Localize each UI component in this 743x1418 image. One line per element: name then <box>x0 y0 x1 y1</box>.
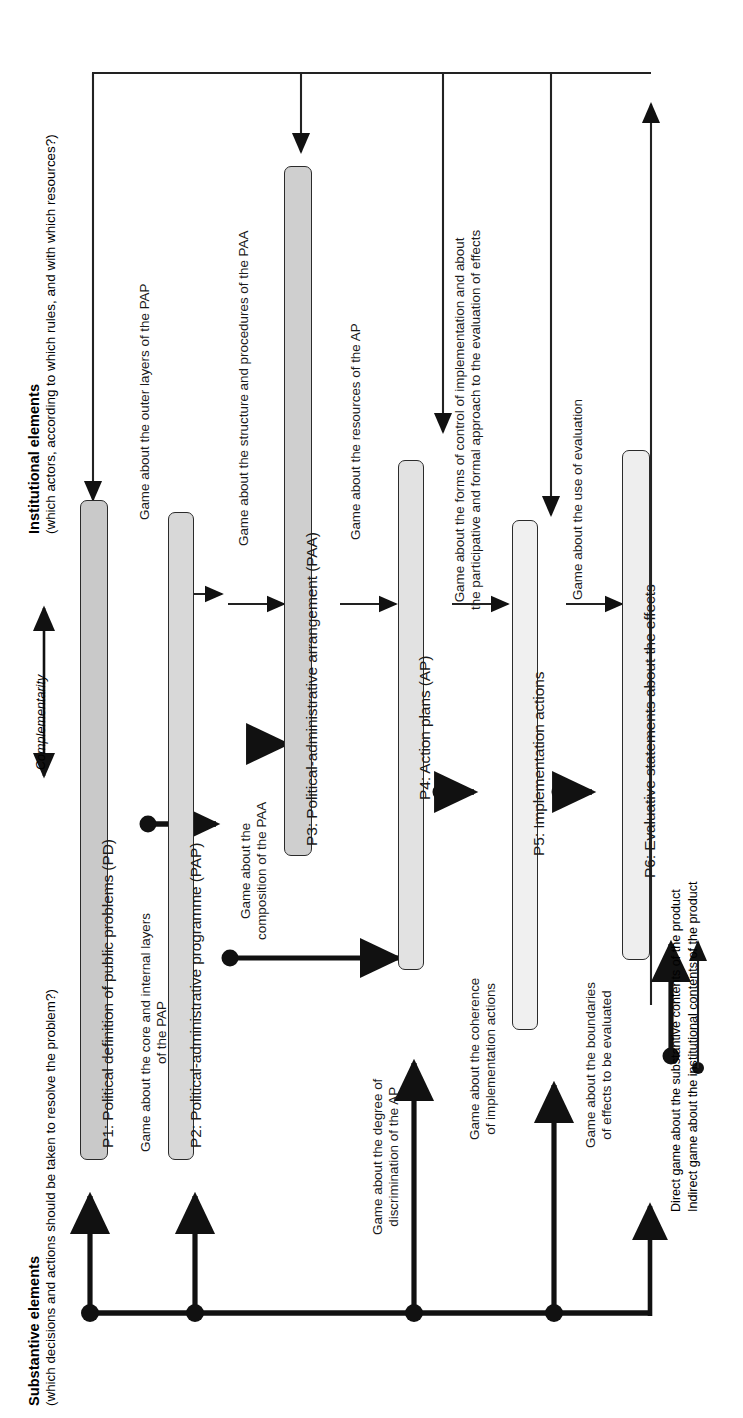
game-label-line: Game about the use of evaluation <box>570 399 586 600</box>
game-label-structure-procedures-paa: Game about the structure and procedures … <box>236 231 252 546</box>
game-label-line: the participative and formal approach to… <box>468 230 484 610</box>
legend-indirect-game-label: Indirect game about the institutional co… <box>686 882 701 1212</box>
game-label-line: Game about the degree of <box>370 1079 386 1235</box>
game-label-use-of-evaluation: Game about the use of evaluation <box>570 399 586 600</box>
game-label-line: Game about the forms of control of imple… <box>452 230 468 610</box>
game-label-line: discrimination of the AP <box>386 1079 402 1235</box>
game-label-line: composition of the PAA <box>254 802 270 940</box>
legend-direct-game-label: Direct game about the substantive conten… <box>669 889 684 1212</box>
game-label-line: of the PAP <box>154 913 170 1152</box>
substantive-elements-title: Substantive elements <box>26 1256 43 1406</box>
game-label-line: Game about the structure and procedures … <box>236 231 252 546</box>
game-label-line: Game about the coherence <box>467 978 483 1140</box>
complementarity-label: Complementarity <box>34 675 49 770</box>
game-label-coherence-implementation: Game about the coherence of implementati… <box>467 978 499 1140</box>
substantive-elements-subtitle: (which decisions and actions should be t… <box>43 989 59 1406</box>
diagram-canvas: P1: Political definition of public probl… <box>0 0 743 1418</box>
institutional-chain-arrows <box>170 594 622 604</box>
institutional-elements-subtitle: (which actors, according to which rules,… <box>43 134 59 534</box>
game-label-line: Game about the <box>238 802 254 940</box>
game-label-outer-layers: Game about the outer layers of the PAP <box>137 284 153 520</box>
game-label-line: Game about the outer layers of the PAP <box>137 284 153 520</box>
process-box-p1-label: P1: Political definition of public probl… <box>99 839 117 1148</box>
game-label-composition-paa: Game about the composition of the PAA <box>238 802 270 940</box>
process-box-p6-label: P6: Evaluative statements about the effe… <box>641 584 659 878</box>
game-label-line: Game about the boundaries <box>583 982 599 1148</box>
game-label-forms-of-control: Game about the forms of control of imple… <box>452 230 484 610</box>
process-box-p5-label: P5: Implementation actions <box>530 672 548 856</box>
process-box-p3-label: P3: Political-administrative arrangement… <box>303 532 321 846</box>
process-box-p4-label: P4: Action plans (AP) <box>416 656 434 800</box>
game-label-boundaries-effects: Game about the boundaries of effects to … <box>583 982 615 1148</box>
game-label-resources-ap: Game about the resources of the AP <box>348 323 364 540</box>
process-box-p2-label: P2: Political-administrative programme (… <box>187 843 205 1148</box>
game-label-core-internal-layers: Game about the core and internal layers … <box>138 913 170 1152</box>
institutional-elements-title: Institutional elements <box>26 384 43 534</box>
game-label-line: Game about the core and internal layers <box>138 913 154 1152</box>
game-label-line: of implementation actions <box>483 978 499 1140</box>
game-label-line: Game about the resources of the AP <box>348 323 364 540</box>
game-label-line: of effects to be evaluated <box>599 982 615 1148</box>
game-label-degree-discrimination: Game about the degree of discrimination … <box>370 1079 402 1235</box>
